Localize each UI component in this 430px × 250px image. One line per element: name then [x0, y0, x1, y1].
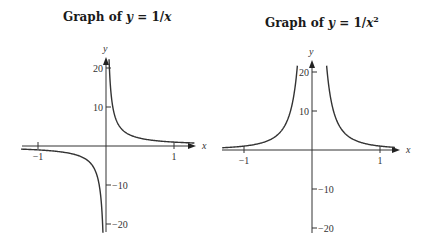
left-y-tick-label: −20	[112, 219, 128, 230]
left-y-axis-label: y	[102, 43, 108, 54]
left-y-tick-label: 10	[93, 102, 103, 113]
right-y-tick-label: 20	[299, 67, 309, 78]
left-curve-branch-positive	[109, 59, 194, 143]
left-y-tick-label: −10	[112, 180, 128, 191]
left-x-tick-label: 1	[172, 151, 177, 162]
right-curve-branch-negative	[222, 66, 297, 148]
right-y-axis-arrow-icon	[309, 60, 315, 68]
right-y-tick-label: −20	[318, 223, 334, 234]
left-x-axis-label: x	[201, 140, 207, 151]
left-y-axis-arrow-icon	[103, 57, 109, 65]
right-x-tick-label: −1	[239, 155, 250, 166]
right-x-tick-label: 1	[378, 155, 383, 166]
right-y-axis-label: y	[308, 46, 314, 57]
right-curve-branch-positive	[327, 66, 395, 148]
right-x-axis-label: x	[405, 144, 411, 155]
plots-canvas: xy−112010−10−20xy−112010−10−20	[0, 0, 430, 250]
left-x-axis-arrow-icon	[188, 143, 196, 149]
right-y-tick-label: −10	[318, 184, 334, 195]
left-y-tick-label: 20	[93, 63, 103, 74]
left-x-tick-label: −1	[33, 151, 44, 162]
right-y-tick-label: 10	[299, 106, 309, 117]
